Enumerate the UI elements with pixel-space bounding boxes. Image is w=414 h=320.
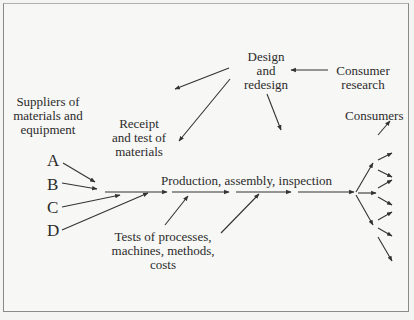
branch-1b <box>378 170 392 177</box>
supplier-c: C <box>47 199 58 216</box>
tests-line2: machines, methods, <box>108 244 218 258</box>
fan-down <box>356 195 373 225</box>
node-suppliers: Suppliers of materials and equipment <box>6 95 90 137</box>
supplier-b: B <box>47 176 58 193</box>
branch-4 <box>378 237 392 261</box>
node-design: Design and redesign <box>236 50 296 92</box>
consumer-research-line1: Consumer <box>328 64 398 78</box>
suppliers-line1: Suppliers of <box>6 95 90 109</box>
branch-1a <box>378 153 392 160</box>
node-production: Production, assembly, inspection <box>161 174 332 188</box>
supplier-a: A <box>47 152 59 169</box>
receipt-line2: and test of <box>104 131 174 145</box>
branch-3a <box>378 212 392 220</box>
arrows-layer <box>0 0 414 320</box>
arrow-b <box>62 183 97 189</box>
fan-up <box>356 163 373 192</box>
arrow-design-to-receipt <box>179 79 230 141</box>
branch-2a <box>378 180 392 188</box>
node-consumers: Consumers <box>345 109 404 123</box>
receipt-line3: materials <box>104 145 174 159</box>
design-line3: redesign <box>236 78 296 92</box>
arrow-design-to-production <box>267 94 281 130</box>
branch-3b <box>378 228 392 236</box>
arrow-tests-2 <box>221 194 259 233</box>
arrow-a <box>63 163 95 182</box>
arrow-c <box>62 195 120 207</box>
suppliers-line3: equipment <box>6 123 90 137</box>
tests-line1: Tests of processes, <box>108 230 218 244</box>
arrow-design-to-suppliers <box>175 68 229 89</box>
suppliers-line2: materials and <box>6 109 90 123</box>
node-consumer-research: Consumer research <box>328 64 398 92</box>
supplier-d: D <box>47 222 59 239</box>
consumer-research-line2: research <box>328 78 398 92</box>
design-line2: and <box>236 64 296 78</box>
branch-2b <box>378 197 392 205</box>
node-tests: Tests of processes, machines, methods, c… <box>108 230 218 272</box>
node-receipt: Receipt and test of materials <box>104 117 174 159</box>
receipt-line1: Receipt <box>104 117 174 131</box>
diagram-stage: Design and redesign Consumer research Su… <box>0 0 414 320</box>
arrow-tests-1 <box>165 196 188 225</box>
tests-line3: costs <box>108 258 218 272</box>
design-line1: Design <box>236 50 296 64</box>
consumer-stroke-top <box>378 121 390 135</box>
